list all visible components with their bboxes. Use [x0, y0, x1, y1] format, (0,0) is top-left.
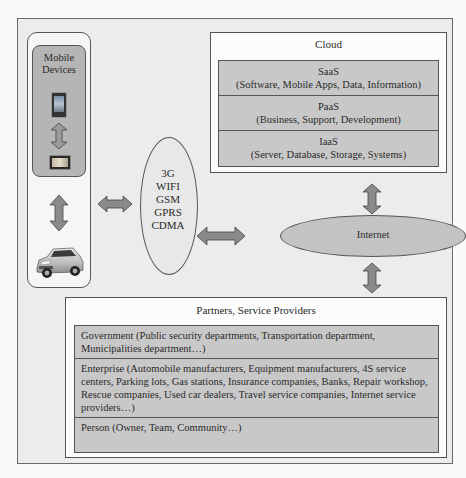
smartphone-icon [51, 92, 67, 118]
partner-categories: Government (Public security departments,… [74, 325, 439, 453]
layer-name: PaaS [219, 100, 438, 113]
car-icon [33, 244, 85, 280]
network-gsm: GSM [140, 193, 196, 206]
mobile-title-line1: Mobile [44, 52, 74, 63]
partner-enterprise: Enterprise (Automobile manufacturers, Eq… [75, 359, 438, 418]
cloud-layer-saas: SaaS (Software, Mobile Apps, Data, Infor… [219, 61, 438, 96]
horizontal-double-arrow-icon [196, 225, 246, 247]
cloud-layer-iaas: IaaS (Server, Database, Storage, Systems… [219, 131, 438, 166]
mobile-title-line2: Devices [42, 64, 76, 75]
vertical-double-arrow-icon [48, 194, 70, 232]
partners-title: Partners, Service Providers [66, 304, 446, 316]
partner-government: Government (Public security departments,… [75, 326, 438, 359]
internet-label: Internet [280, 229, 466, 240]
vertical-double-arrow-icon [361, 183, 383, 215]
tablet-icon [49, 155, 71, 170]
layer-detail: (Business, Support, Development) [219, 113, 438, 126]
layer-name: IaaS [219, 135, 438, 148]
cloud-service-layers: SaaS (Software, Mobile Apps, Data, Infor… [218, 60, 439, 167]
horizontal-double-arrow-icon [97, 194, 133, 214]
wireless-networks-list: 3G WIFI GSM GPRS CDMA [140, 167, 196, 232]
layer-detail: (Server, Database, Storage, Systems) [219, 148, 438, 161]
vertical-double-arrow-icon [361, 262, 383, 294]
network-cdma: CDMA [140, 219, 196, 232]
layer-name: SaaS [219, 65, 438, 78]
cloud-title: Cloud [211, 38, 446, 50]
network-3g: 3G [140, 167, 196, 180]
vertical-double-arrow-icon [49, 122, 69, 150]
network-gprs: GPRS [140, 206, 196, 219]
network-wifi: WIFI [140, 180, 196, 193]
cloud-layer-paas: PaaS (Business, Support, Development) [219, 96, 438, 131]
mobile-devices-title: Mobile Devices [33, 52, 85, 76]
layer-detail: (Software, Mobile Apps, Data, Informatio… [219, 78, 438, 91]
partner-person: Person (Owner, Team, Community…) [75, 418, 438, 452]
